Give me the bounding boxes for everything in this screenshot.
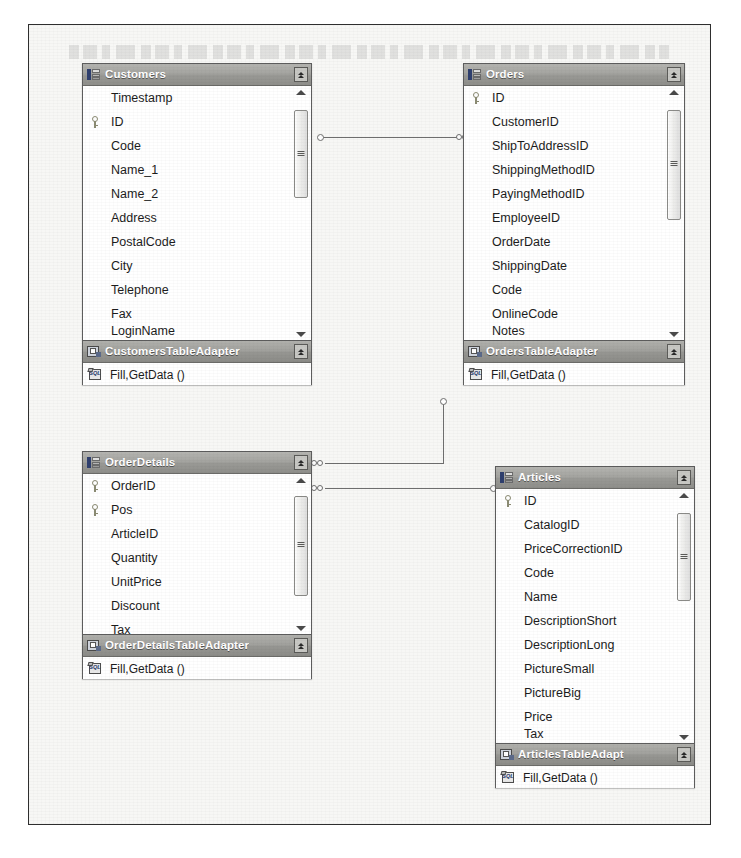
adapter-header-orderdetails[interactable]: OrderDetailsTableAdapter (83, 635, 311, 657)
chevron-up-icon[interactable] (294, 67, 308, 82)
field-name: OnlineCode (492, 307, 558, 321)
adapter-header-customers[interactable]: CustomersTableAdapter (83, 341, 311, 363)
field-row[interactable]: Tax (496, 729, 694, 743)
field-row[interactable]: PictureBig (496, 681, 694, 705)
field-row[interactable]: Code (464, 278, 684, 302)
dataset-designer-canvas[interactable]: Customers Timestamp ID (28, 24, 711, 825)
chevron-up-icon[interactable] (667, 67, 681, 82)
field-name: Tax (524, 729, 543, 741)
field-list-articles[interactable]: ID CatalogID PriceCorrectionID Code Name… (496, 489, 694, 744)
field-name: ID (492, 91, 505, 105)
field-row[interactable]: LoginName (83, 326, 311, 340)
entity-header-orderdetails[interactable]: OrderDetails (83, 452, 311, 474)
field-row[interactable]: ID (464, 86, 684, 110)
field-row[interactable]: Price (496, 705, 694, 729)
field-row[interactable]: Name_2 (83, 182, 311, 206)
field-row[interactable]: City (83, 254, 311, 278)
field-name: OrderDate (492, 235, 550, 249)
field-row[interactable]: ID (496, 489, 694, 513)
field-name: Code (111, 139, 141, 153)
field-row[interactable]: Pos (83, 498, 311, 522)
field-row[interactable]: CustomerID (464, 110, 684, 134)
entity-header-orders[interactable]: Orders (464, 64, 684, 86)
entity-adapter-orderdetails[interactable]: OrderDetailsTableAdapter SQL Fill,GetDat… (82, 634, 312, 679)
field-row[interactable]: CatalogID (496, 513, 694, 537)
primary-key-icon (89, 480, 101, 492)
adapter-header-orders[interactable]: OrdersTableAdapter (464, 341, 684, 363)
relation-line-orders-orderdetails-horizontal[interactable] (325, 463, 444, 464)
field-row[interactable]: PictureSmall (496, 657, 694, 681)
adapter-method-label: Fill,GetData () (491, 368, 566, 382)
relation-line-customers-orders[interactable] (321, 137, 457, 138)
field-row[interactable]: Fax (83, 302, 311, 326)
entity-adapter-articles[interactable]: ArticlesTableAdapt SQL Fill,GetData () (495, 743, 695, 788)
chevron-up-icon[interactable] (294, 638, 308, 653)
relation-line-orderdetails-articles[interactable] (325, 488, 491, 489)
field-row[interactable]: Name_1 (83, 158, 311, 182)
field-row[interactable]: Name (496, 585, 694, 609)
field-row[interactable]: DescriptionLong (496, 633, 694, 657)
adapter-header-articles[interactable]: ArticlesTableAdapt (496, 744, 694, 766)
field-row[interactable]: PostalCode (83, 230, 311, 254)
field-row[interactable]: ShipToAddressID (464, 134, 684, 158)
entity-header-customers[interactable]: Customers (83, 64, 311, 86)
field-list-orderdetails[interactable]: OrderID Pos ArticleID Quantity UnitPrice… (83, 474, 311, 635)
field-name: LoginName (111, 326, 175, 338)
field-row[interactable]: PayingMethodID (464, 182, 684, 206)
field-row[interactable]: ShippingMethodID (464, 158, 684, 182)
field-row[interactable]: Telephone (83, 278, 311, 302)
adapter-method-row[interactable]: SQL Fill,GetData () (83, 659, 311, 679)
field-name: OrderID (111, 479, 155, 493)
adapter-method-label: Fill,GetData () (110, 662, 185, 676)
field-row[interactable]: ID (83, 110, 311, 134)
field-row[interactable]: ArticleID (83, 522, 311, 546)
field-row[interactable]: Code (83, 134, 311, 158)
field-list-customers[interactable]: Timestamp ID Code Name_1 Name_2 Address (83, 86, 311, 341)
field-row[interactable]: OrderDate (464, 230, 684, 254)
chevron-up-icon[interactable] (294, 455, 308, 470)
key-placeholder (89, 212, 101, 224)
field-row[interactable]: DescriptionShort (496, 609, 694, 633)
entity-orderdetails[interactable]: OrderDetails OrderID Pos (82, 451, 312, 634)
adapter-method-row[interactable]: SQL Fill,GetData () (464, 365, 684, 385)
entity-articles[interactable]: Articles ID CatalogID (495, 466, 695, 743)
entity-orders[interactable]: Orders ID CustomerID (463, 63, 685, 340)
chevron-up-icon[interactable] (667, 344, 681, 359)
field-row[interactable]: UnitPrice (83, 570, 311, 594)
field-row[interactable]: PriceCorrectionID (496, 537, 694, 561)
field-row[interactable]: OrderID (83, 474, 311, 498)
field-name: Name_1 (111, 163, 158, 177)
field-row[interactable]: Quantity (83, 546, 311, 570)
adapter-method-row[interactable]: SQL Fill,GetData () (83, 365, 311, 385)
entity-customers[interactable]: Customers Timestamp ID (82, 63, 312, 340)
adapter-method-row[interactable]: SQL Fill,GetData () (496, 768, 694, 788)
field-list-orders[interactable]: ID CustomerID ShipToAddressID ShippingMe… (464, 86, 684, 341)
chevron-up-icon[interactable] (677, 747, 691, 762)
sql-query-icon: SQL (88, 369, 103, 381)
field-row[interactable]: Address (83, 206, 311, 230)
entity-adapter-customers[interactable]: CustomersTableAdapter SQL Fill,GetData (… (82, 340, 312, 385)
entity-header-articles[interactable]: Articles (496, 467, 694, 489)
key-placeholder (89, 284, 101, 296)
field-row[interactable]: Code (496, 561, 694, 585)
field-row[interactable]: ShippingDate (464, 254, 684, 278)
chevron-up-icon[interactable] (677, 470, 691, 485)
field-row[interactable]: OnlineCode (464, 302, 684, 326)
key-placeholder (470, 116, 482, 128)
field-name: ShipToAddressID (492, 139, 589, 153)
key-placeholder (89, 600, 101, 612)
field-row[interactable]: Tax (83, 618, 311, 635)
adapter-method-label: Fill,GetData () (110, 368, 185, 382)
relation-line-orders-orderdetails-vertical[interactable] (443, 403, 444, 463)
field-row[interactable]: Discount (83, 594, 311, 618)
field-row[interactable]: Notes (464, 326, 684, 340)
field-row[interactable]: EmployeeID (464, 206, 684, 230)
key-placeholder (89, 236, 101, 248)
field-row[interactable]: Timestamp (83, 86, 311, 110)
key-placeholder (470, 260, 482, 272)
sql-query-icon: SQL (469, 369, 484, 381)
entity-adapter-orders[interactable]: OrdersTableAdapter SQL Fill,GetData () (463, 340, 685, 385)
field-name: DescriptionShort (524, 614, 616, 628)
primary-key-icon (502, 495, 514, 507)
chevron-up-icon[interactable] (294, 344, 308, 359)
